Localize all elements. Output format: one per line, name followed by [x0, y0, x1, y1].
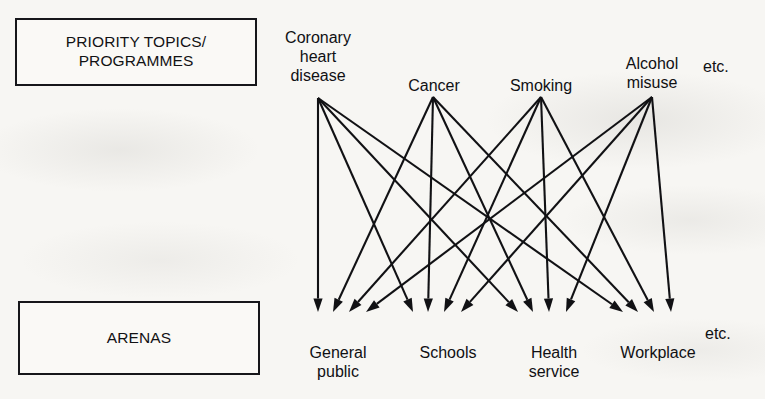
link-arrowhead: [625, 299, 638, 312]
link-line: [541, 97, 648, 300]
link-line: [377, 97, 652, 304]
link-arrowhead: [444, 298, 454, 312]
topic-label-coronary-heart-disease: Coronary heart disease: [268, 10, 368, 86]
topic-text: Alcohol misuse: [626, 55, 678, 91]
arena-text: Workplace: [620, 344, 695, 361]
link-arrowhead: [505, 299, 518, 312]
arenas-etc-label: etc.: [705, 325, 731, 343]
link-line: [318, 98, 612, 304]
topic-label-smoking: Smoking: [493, 58, 589, 96]
topic-text: Coronary heart disease: [285, 29, 351, 84]
link-arrowhead: [313, 299, 322, 313]
link-line: [318, 98, 408, 300]
link-line: [470, 97, 652, 302]
arena-text: Health service: [529, 344, 580, 380]
link-line: [318, 98, 509, 302]
topics-etc-label: etc.: [703, 58, 729, 76]
arena-text: General public: [310, 344, 367, 380]
arena-label-general-public: General public: [286, 325, 390, 382]
link-line: [541, 97, 549, 299]
link-arrowhead: [424, 298, 433, 312]
figure-canvas: PRIORITY TOPICS/ PROGRAMMES ARENAS Coron…: [0, 0, 765, 399]
link-arrowhead: [349, 299, 361, 312]
link-arrowhead: [609, 300, 623, 312]
topic-text: Cancer: [408, 77, 460, 94]
arena-text: Schools: [420, 344, 477, 361]
priority-topics-box: PRIORITY TOPICS/ PROGRAMMES: [15, 18, 257, 86]
link-line: [428, 97, 433, 299]
topic-label-alcohol-misuse: Alcohol misuse: [606, 36, 698, 93]
arena-label-workplace: Workplace: [606, 325, 710, 363]
link-arrowhead: [366, 300, 380, 312]
topic-label-cancer: Cancer: [388, 58, 480, 96]
link-arrowhead: [523, 298, 533, 312]
link-arrowhead: [566, 298, 575, 312]
arenas-box-label: ARENAS: [107, 329, 171, 348]
arenas-box: ARENAS: [18, 301, 260, 375]
priority-topics-box-label: PRIORITY TOPICS/ PROGRAMMES: [17, 33, 255, 71]
link-line: [450, 97, 541, 300]
arena-label-health-service: Health service: [508, 325, 600, 382]
link-arrowhead: [403, 298, 413, 312]
link-line: [358, 97, 541, 302]
topic-text: Smoking: [510, 77, 572, 94]
link-line: [339, 97, 433, 300]
link-arrowhead: [665, 298, 674, 312]
arena-label-schools: Schools: [400, 325, 496, 363]
link-line: [652, 97, 670, 299]
link-arrowhead: [333, 298, 343, 312]
link-arrowhead: [644, 298, 654, 312]
link-line: [433, 97, 629, 302]
link-arrowhead: [461, 299, 473, 312]
link-arrowhead: [544, 298, 553, 312]
link-line: [571, 97, 652, 299]
link-line: [433, 97, 527, 300]
